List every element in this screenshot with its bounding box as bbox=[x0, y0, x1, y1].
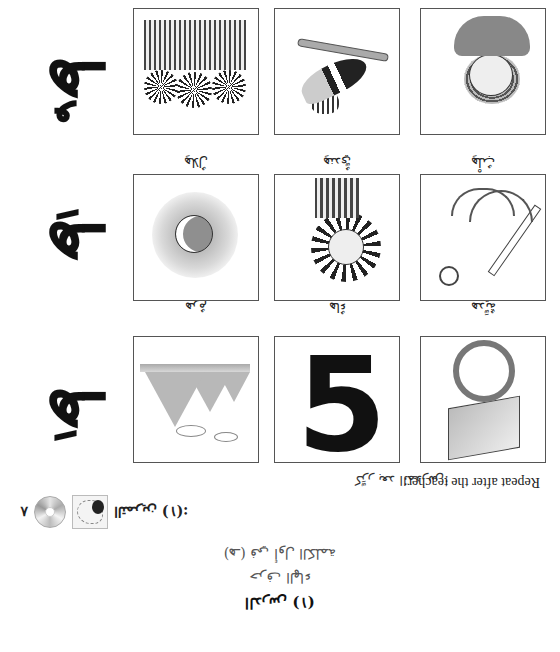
picture-caption: هِلالٌ bbox=[133, 155, 259, 170]
textbook-page: الدرس (١) حرف الهاء (هـ) في أول الكلمة ا… bbox=[0, 0, 560, 652]
anchor-illustration bbox=[420, 174, 545, 300]
letter-ha-kasra: هِـ bbox=[30, 214, 120, 284]
picture-caption: هِلْبٌ bbox=[420, 155, 546, 170]
picture-caption: هِنديٌّ bbox=[274, 155, 400, 170]
picture-card bbox=[133, 174, 259, 301]
exercise-header: التمرين (١): ٨ bbox=[20, 492, 188, 532]
picture-card bbox=[274, 8, 400, 135]
picture-card bbox=[420, 336, 546, 463]
letter-name: حرف الهاء bbox=[0, 570, 560, 586]
picture-caption: هديَّةٌ bbox=[420, 300, 546, 315]
gift-box-illustration bbox=[448, 396, 520, 461]
picture-card bbox=[133, 336, 259, 463]
letter-ha-illustration: 5 bbox=[297, 340, 387, 463]
moon-shape bbox=[175, 215, 213, 253]
lesson-title: الدرس (١) bbox=[0, 594, 560, 612]
body-shape bbox=[315, 178, 359, 218]
pyramids-illustration bbox=[140, 342, 250, 412]
letter-ha-fatha: هَـ bbox=[30, 382, 120, 452]
face-shape bbox=[328, 229, 364, 265]
indian-group-illustration bbox=[133, 8, 258, 134]
letter-ha-damma: هُـ bbox=[30, 52, 120, 122]
exercise-label: التمرين (١): bbox=[114, 504, 188, 520]
picture-card bbox=[420, 174, 546, 301]
ribbon-shape bbox=[453, 340, 515, 402]
listening-thumbnail-icon bbox=[72, 495, 108, 529]
track-number: ٨ bbox=[20, 504, 28, 520]
hoopoe-bird-illustration bbox=[274, 8, 399, 134]
picture-card bbox=[133, 8, 259, 135]
picture-card: 5 bbox=[274, 336, 400, 463]
letter-position: (هـ) في أول الكلمة bbox=[0, 546, 560, 562]
picture-caption: هاءٌ bbox=[274, 300, 400, 315]
instruction-english: Repeat after the teacher: bbox=[404, 474, 540, 490]
picture-card bbox=[420, 8, 546, 135]
picture-caption: هرمٌ bbox=[133, 300, 259, 315]
cd-audio-icon[interactable] bbox=[34, 496, 66, 528]
man-portrait-illustration bbox=[420, 8, 545, 134]
cloud-shape bbox=[214, 432, 238, 442]
picture-card bbox=[274, 174, 400, 301]
